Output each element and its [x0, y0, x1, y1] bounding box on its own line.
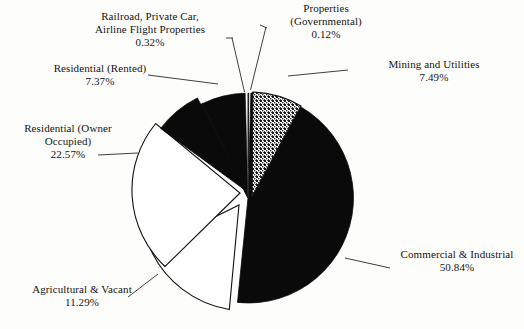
pie-chart-figure: Railroad, Private Car, Airline Flight Pr…: [0, 0, 524, 329]
pie-label-mining-utilities[interactable]: Mining and Utilities 7.49%: [348, 58, 520, 84]
pie-label-residential-owner-occupied[interactable]: Residential (Owner Occupied) 22.57%: [2, 122, 134, 161]
pie-label-railroad-line2: Airline Flight Properties: [95, 23, 205, 35]
pie-label-properties-line1: Properties: [303, 2, 349, 14]
pie-label-commercial-industrial[interactable]: Commercial & Industrial 50.84%: [392, 248, 522, 274]
pie-label-mining-value: 7.49%: [348, 71, 520, 84]
pie-label-railroad-line1: Railroad, Private Car,: [101, 10, 199, 22]
pie-label-properties-governmental[interactable]: Properties (Governmental) 0.12%: [268, 2, 384, 41]
pie-label-agricultural-line1: Agricultural & Vacant: [32, 283, 132, 295]
leader-line-commercial: [345, 258, 390, 268]
pie-label-railroad-value: 0.32%: [60, 36, 240, 49]
pie-label-mining-line1: Mining and Utilities: [388, 58, 479, 70]
pie-label-agricultural-value: 11.29%: [12, 296, 152, 309]
pie-label-properties-value: 0.12%: [268, 28, 384, 41]
pie-label-commercial-value: 50.84%: [392, 261, 522, 274]
pie-label-owner-line1: Residential (Owner: [24, 122, 112, 134]
pie-label-residential-rented[interactable]: Residential (Rented) 7.37%: [24, 62, 176, 88]
pie-label-properties-line2: (Governmental): [290, 15, 362, 27]
pie-chart-svg: [0, 0, 524, 329]
pie-label-owner-value: 22.57%: [2, 148, 134, 161]
pie-label-owner-line2: Occupied): [45, 135, 92, 147]
pie-label-rented-value: 7.37%: [24, 75, 176, 88]
pie-label-rented-line1: Residential (Rented): [54, 62, 147, 74]
pie-label-commercial-line1: Commercial & Industrial: [401, 248, 514, 260]
leader-line-mining: [288, 70, 348, 76]
leader-line-properties: [251, 27, 267, 90]
pie-label-agricultural-vacant[interactable]: Agricultural & Vacant 11.29%: [12, 283, 152, 309]
pie-label-railroad[interactable]: Railroad, Private Car, Airline Flight Pr…: [60, 10, 240, 49]
leader-line-properties-tick: [260, 25, 267, 28]
